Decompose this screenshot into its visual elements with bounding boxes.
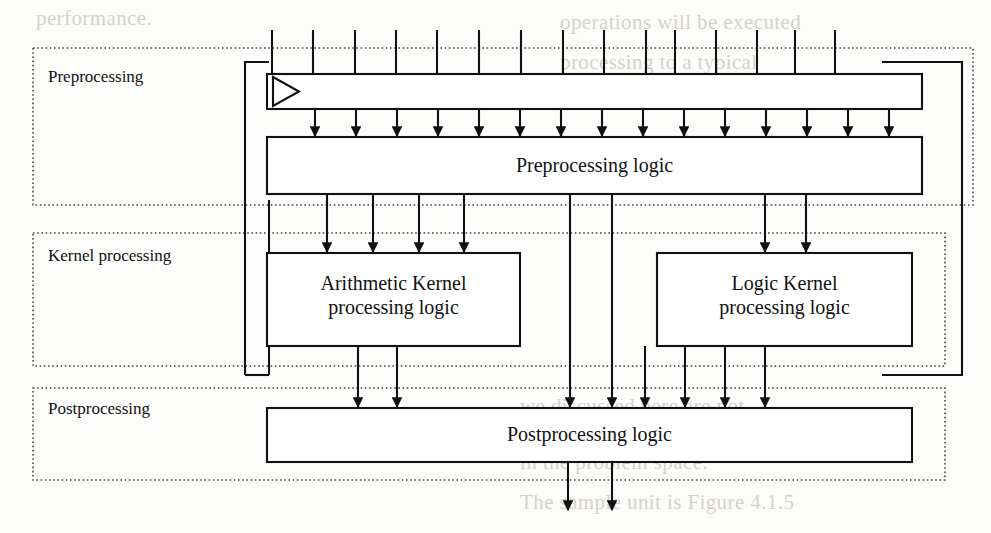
region-label-postprocessing: Postprocessing — [48, 400, 150, 417]
arithmetic-kernel-line-2: processing logic — [267, 296, 520, 320]
block-bus — [267, 74, 922, 109]
block-label-postprocessing-logic: Postprocessing logic — [267, 423, 912, 447]
region-label-preprocessing: Preprocessing — [48, 68, 143, 85]
logic-kernel-line-2: processing logic — [657, 296, 912, 320]
region-label-kernel-processing: Kernel processing — [48, 247, 171, 264]
block-label-arithmetic-kernel: Arithmetic Kernel processing logic — [267, 272, 520, 319]
block-rectangles — [267, 74, 922, 462]
feedback-left-path — [245, 62, 269, 375]
logic-kernel-line-1: Logic Kernel — [657, 272, 912, 296]
block-label-preprocessing-logic: Preprocessing logic — [267, 154, 922, 178]
arithmetic-kernel-line-1: Arithmetic Kernel — [267, 272, 520, 296]
block-label-logic-kernel: Logic Kernel processing logic — [657, 272, 912, 319]
block-diagram-svg — [0, 0, 991, 533]
diagram-canvas: performance.operations will be executedp… — [0, 0, 991, 533]
